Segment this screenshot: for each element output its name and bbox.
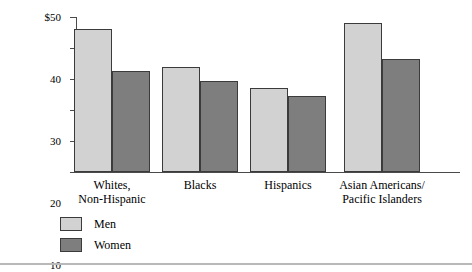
bar-chart-figure: Median Income (thousands) 010203040$50 W… [0, 0, 472, 272]
y-tick-mark: $50 [70, 17, 76, 18]
bar-men-3 [344, 23, 382, 172]
bar-women-1 [200, 81, 238, 172]
bar-women-0 [112, 71, 150, 172]
bar-women-3 [382, 59, 420, 172]
bar-men-0 [74, 29, 112, 172]
y-tick-label: 30 [50, 136, 61, 147]
bar-women-2 [288, 96, 326, 172]
chart-legend: MenWomen [60, 213, 131, 255]
y-tick-label: 40 [50, 74, 61, 85]
legend-item-women: Women [60, 234, 131, 255]
category-label-3: Asian Americans/ Pacific Islanders [302, 178, 462, 206]
legend-item-men: Men [60, 213, 131, 234]
x-axis-line [76, 172, 460, 173]
y-tick-label: $50 [45, 12, 62, 23]
legend-swatch-men [60, 217, 82, 231]
bar-men-1 [162, 67, 200, 172]
bar-men-2 [250, 88, 288, 172]
legend-label-women: Women [94, 239, 131, 251]
plot-area: 010203040$50 [76, 17, 460, 173]
legend-swatch-women [60, 238, 82, 252]
y-tick-mark: 0 [70, 172, 76, 173]
y-tick-label: 10 [50, 260, 61, 271]
bottom-divider [0, 263, 472, 265]
legend-label-men: Men [94, 218, 116, 230]
